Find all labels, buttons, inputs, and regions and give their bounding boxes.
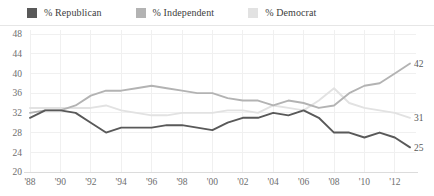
- y-tick-label: 28: [13, 128, 23, 138]
- square-swatch-icon: [136, 8, 146, 18]
- data-series: [30, 64, 410, 148]
- series-line-independent: [30, 64, 410, 113]
- y-tick-label: 40: [13, 69, 23, 79]
- y-tick-label: 36: [13, 88, 23, 98]
- end-label-independent: 42: [414, 59, 424, 69]
- y-tick-label: 48: [13, 29, 23, 39]
- chart-legend: % Republican % Independent % Democrat: [0, 0, 434, 26]
- legend-item-republican: % Republican: [27, 7, 102, 18]
- y-axis-tick-labels: 2024283236404448: [13, 29, 23, 177]
- x-tick-label: '94: [116, 177, 127, 187]
- y-tick-label: 32: [13, 108, 23, 118]
- square-swatch-icon: [248, 8, 258, 18]
- x-tick-label: '90: [55, 177, 66, 187]
- legend-label-republican: % Republican: [44, 7, 102, 18]
- x-axis-tick-labels: '88'90'92'94'96'98'00'02'04'06'08'10'12: [24, 177, 400, 187]
- x-tick-label: '10: [359, 177, 370, 187]
- end-label-democrat: 31: [414, 113, 424, 123]
- square-swatch-icon: [27, 8, 37, 18]
- x-tick-label: '00: [207, 177, 218, 187]
- x-tick-label: '02: [237, 177, 248, 187]
- y-tick-label: 44: [13, 49, 23, 59]
- party-affiliation-line-chart: % Republican % Independent % Democrat 20…: [0, 0, 434, 196]
- series-line-republican: [30, 110, 410, 147]
- x-tick-label: '98: [176, 177, 187, 187]
- plot-area: 2024283236404448 '88'90'92'94'96'98'00'0…: [0, 26, 434, 196]
- x-tick-label: '12: [389, 177, 400, 187]
- legend-label-independent: % Independent: [153, 7, 215, 18]
- x-tick-label: '88: [24, 177, 35, 187]
- end-label-republican: 25: [414, 143, 424, 153]
- y-tick-label: 20: [13, 167, 23, 177]
- x-tick-label: '96: [146, 177, 157, 187]
- legend-item-democrat: % Democrat: [248, 7, 316, 18]
- gridlines: [30, 30, 416, 172]
- x-tick-label: '06: [298, 177, 309, 187]
- legend-item-independent: % Independent: [136, 7, 215, 18]
- x-tick-label: '04: [268, 177, 279, 187]
- y-tick-label: 24: [13, 148, 23, 158]
- x-tick-label: '92: [85, 177, 96, 187]
- x-tick-label: '08: [328, 177, 339, 187]
- legend-label-democrat: % Democrat: [265, 7, 316, 18]
- plot-svg: 2024283236404448 '88'90'92'94'96'98'00'0…: [0, 26, 434, 196]
